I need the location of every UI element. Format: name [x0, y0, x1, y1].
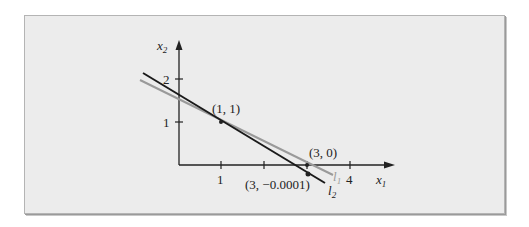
label-l1: l1	[333, 169, 341, 186]
y-tick-label-1: 1	[163, 115, 170, 130]
y-axis-arrow-icon	[176, 40, 183, 50]
label-point-1-1: (1, 1)	[212, 101, 240, 116]
point-1-1	[219, 120, 223, 124]
x-tick-label-1: 1	[217, 172, 224, 187]
x-axis-arrow-icon	[384, 162, 395, 169]
point-3-neg	[306, 172, 311, 177]
label-l2: l2	[328, 183, 337, 200]
point-3-0	[305, 163, 309, 167]
x-tick-label-4: 4	[346, 172, 353, 187]
line-l2	[143, 73, 325, 183]
x-axis-label: x1	[375, 172, 386, 189]
label-point-3-neg: (3, −0.0001)	[245, 177, 310, 192]
y-axis-label: x2	[156, 38, 168, 55]
line-intersection-diagram: 1 4 1 2 x2 x1 (1, 1) (3, 0) (3, −0.0001)…	[0, 0, 529, 227]
label-point-3-0: (3, 0)	[309, 145, 337, 160]
